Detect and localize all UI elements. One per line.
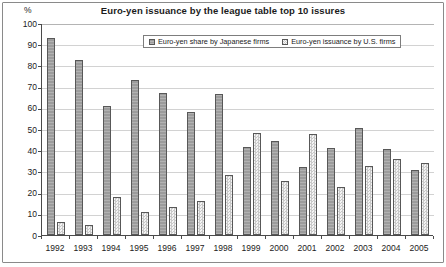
bar-series-1[interactable] bbox=[309, 134, 318, 235]
x-axis-tick-label: 1994 bbox=[97, 243, 125, 253]
bar-series-0[interactable] bbox=[75, 60, 84, 235]
bar-series-0[interactable] bbox=[47, 38, 56, 235]
y-axis-tick-labels: 0102030405060708090100 bbox=[8, 24, 37, 236]
y-axis-tick-mark bbox=[38, 236, 41, 237]
x-axis-tick-label: 1995 bbox=[125, 243, 153, 253]
bar-series-1[interactable] bbox=[169, 207, 178, 235]
y-axis-tick-label: 20 bbox=[13, 189, 37, 198]
x-axis-tick-label: 2003 bbox=[349, 243, 377, 253]
bar-series-1[interactable] bbox=[337, 187, 346, 235]
bar-series-0[interactable] bbox=[355, 128, 364, 235]
bar-group bbox=[42, 23, 70, 235]
bar-group bbox=[294, 23, 322, 235]
bar-group bbox=[322, 23, 350, 235]
legend-label-series-0: Euro-yen share by Japanese firms bbox=[158, 37, 269, 46]
bar-series-1[interactable] bbox=[113, 197, 122, 235]
y-axis-tick-label: 30 bbox=[13, 168, 37, 177]
x-axis-tick-mark bbox=[153, 236, 154, 239]
legend-label-series-1: Euro-yen issuance by U.S. firms bbox=[291, 37, 395, 46]
legend-entry-1[interactable]: Euro-yen issuance by U.S. firms bbox=[282, 37, 395, 46]
chart-title: Euro-yen issuance by the league table to… bbox=[0, 5, 446, 16]
x-axis-tick-mark bbox=[293, 236, 294, 239]
y-axis-tick-mark bbox=[38, 88, 41, 89]
x-axis-tick-label: 1999 bbox=[237, 243, 265, 253]
y-axis-tick-mark bbox=[38, 45, 41, 46]
bar-series-1[interactable] bbox=[393, 159, 402, 235]
x-axis-tick-mark bbox=[433, 236, 434, 239]
bar-series-0[interactable] bbox=[411, 170, 420, 235]
bar-group bbox=[70, 23, 98, 235]
y-axis-tick-mark bbox=[38, 66, 41, 67]
bar-group bbox=[350, 23, 378, 235]
bar-group bbox=[406, 23, 434, 235]
y-axis-tick-mark bbox=[38, 215, 41, 216]
x-axis-tick-label: 1997 bbox=[181, 243, 209, 253]
x-axis-tick-mark bbox=[349, 236, 350, 239]
x-axis-tick-mark bbox=[97, 236, 98, 239]
x-axis-tick-label: 2000 bbox=[265, 243, 293, 253]
x-axis-tick-label: 1996 bbox=[153, 243, 181, 253]
bar-series-0[interactable] bbox=[131, 80, 140, 235]
x-axis-tick-mark bbox=[321, 236, 322, 239]
legend-entry-0[interactable]: Euro-yen share by Japanese firms bbox=[149, 37, 269, 46]
bar-series-1[interactable] bbox=[365, 166, 374, 235]
bar-group bbox=[154, 23, 182, 235]
bar-series-1[interactable] bbox=[57, 222, 66, 235]
legend-swatch-icon-series-1 bbox=[282, 39, 288, 45]
y-axis-tick-label: 40 bbox=[13, 147, 37, 156]
y-axis-tick-label: 10 bbox=[13, 210, 37, 219]
y-axis-tick-label: 80 bbox=[13, 62, 37, 71]
bar-series-0[interactable] bbox=[159, 93, 168, 235]
y-axis-tick-label: 50 bbox=[13, 126, 37, 135]
legend-swatch-icon-series-0 bbox=[149, 39, 155, 45]
bar-series-1[interactable] bbox=[197, 201, 206, 235]
bar-series-0[interactable] bbox=[383, 149, 392, 235]
x-axis-tick-mark bbox=[237, 236, 238, 239]
x-axis-tick-label: 1998 bbox=[209, 243, 237, 253]
x-axis-tick-mark bbox=[209, 236, 210, 239]
y-axis-tick-mark bbox=[38, 109, 41, 110]
bar-series-1[interactable] bbox=[281, 181, 290, 235]
bar-group bbox=[266, 23, 294, 235]
x-axis-tick-mark bbox=[41, 236, 42, 239]
bar-series-0[interactable] bbox=[243, 147, 252, 235]
y-axis-tick-mark bbox=[38, 151, 41, 152]
x-axis-tick-mark bbox=[125, 236, 126, 239]
x-axis-tick-mark bbox=[265, 236, 266, 239]
chart-legend: Euro-yen share by Japanese firms Euro-ye… bbox=[143, 35, 401, 48]
x-axis-tick-label: 2001 bbox=[293, 243, 321, 253]
bar-series-0[interactable] bbox=[187, 112, 196, 235]
y-axis-tick-mark bbox=[38, 194, 41, 195]
bar-series-0[interactable] bbox=[327, 148, 336, 235]
bar-series-0[interactable] bbox=[299, 167, 308, 235]
plot-area bbox=[41, 24, 433, 236]
x-axis-tick-mark bbox=[69, 236, 70, 239]
y-axis-tick-label: 60 bbox=[13, 104, 37, 113]
x-axis-tick-mark bbox=[405, 236, 406, 239]
bar-series-0[interactable] bbox=[103, 106, 112, 235]
y-axis-tick-label: 0 bbox=[13, 232, 37, 241]
bar-series-1[interactable] bbox=[421, 163, 430, 235]
y-axis-tick-mark bbox=[38, 172, 41, 173]
x-axis-tick-label: 2004 bbox=[377, 243, 405, 253]
bar-group bbox=[98, 23, 126, 235]
bar-group bbox=[378, 23, 406, 235]
x-axis-tick-label: 1993 bbox=[69, 243, 97, 253]
bar-group bbox=[210, 23, 238, 235]
x-axis-tick-label: 2005 bbox=[405, 243, 433, 253]
y-axis-tick-label: 90 bbox=[13, 41, 37, 50]
bar-series-1[interactable] bbox=[253, 133, 262, 235]
bar-series-0[interactable] bbox=[271, 141, 280, 235]
bar-series-1[interactable] bbox=[225, 175, 234, 235]
y-axis-tick-label: 70 bbox=[13, 83, 37, 92]
bar-group bbox=[182, 23, 210, 235]
bar-group bbox=[126, 23, 154, 235]
x-axis-tick-mark bbox=[181, 236, 182, 239]
bar-series-1[interactable] bbox=[85, 225, 94, 235]
x-axis-tick-label: 2002 bbox=[321, 243, 349, 253]
chart-figure: Euro-yen issuance by the league table to… bbox=[0, 0, 446, 267]
bar-series-0[interactable] bbox=[215, 94, 224, 235]
bar-series-1[interactable] bbox=[141, 212, 150, 235]
y-axis-tick-label: 100 bbox=[13, 20, 37, 29]
y-axis-tick-mark bbox=[38, 130, 41, 131]
